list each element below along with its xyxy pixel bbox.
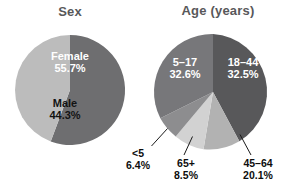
- slice-label-age-under-5: <5 6.4%: [112, 148, 164, 172]
- slice-label-age-under-5-category: <5: [112, 148, 164, 160]
- slice-label-age-5-17-category: 5–17: [156, 56, 214, 68]
- slice-label-age-5-17: 5–17 32.6%: [156, 56, 214, 81]
- slice-label-age-18-44-category: 18–44: [212, 56, 274, 68]
- slice-label-age-5-17-value: 32.6%: [156, 68, 214, 80]
- slice-label-age-18-44: 18–44 32.5%: [212, 56, 274, 81]
- slice-label-age-45-64: 45–64 20.1%: [228, 158, 288, 182]
- slice-label-female-value: 55.7%: [22, 62, 118, 74]
- slice-label-age-45-64-category: 45–64: [228, 158, 288, 170]
- leader-line-under-5: [152, 129, 168, 147]
- pie-chart-figure: Sex Age (years) Female 55.7% Male 44.3% …: [0, 0, 298, 196]
- slice-label-age-18-44-value: 32.5%: [212, 68, 274, 80]
- slice-label-age-65-plus-value: 8.5%: [160, 170, 212, 182]
- slice-label-age-under-5-value: 6.4%: [112, 160, 164, 172]
- slice-label-female-category: Female: [22, 50, 118, 62]
- slice-label-male-value: 44.3%: [17, 109, 113, 121]
- slice-label-female: Female 55.7%: [22, 50, 118, 75]
- slice-label-age-65-plus: 65+ 8.5%: [160, 158, 212, 182]
- slice-label-age-45-64-value: 20.1%: [228, 170, 288, 182]
- leader-line-45-64: [240, 135, 251, 156]
- slice-label-male: Male 44.3%: [17, 97, 113, 122]
- slice-label-male-category: Male: [17, 97, 113, 109]
- slice-label-age-65-plus-category: 65+: [160, 158, 212, 170]
